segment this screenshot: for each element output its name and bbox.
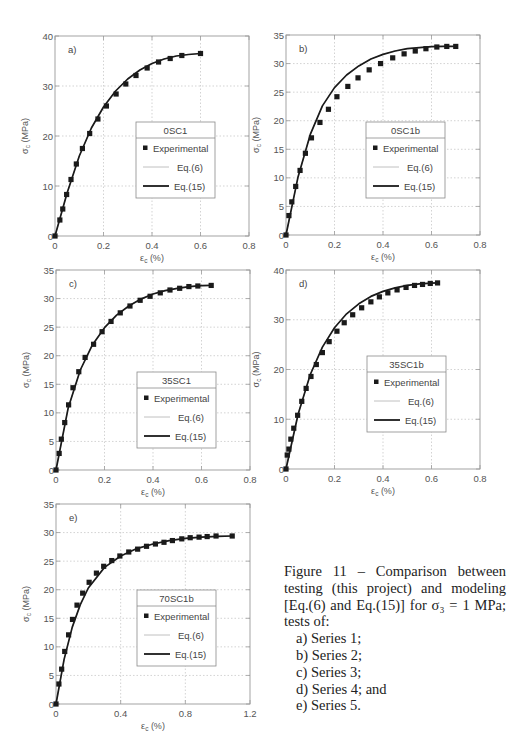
data-point <box>359 305 364 310</box>
x-tick-label: 0.6 <box>194 240 207 251</box>
data-point <box>114 91 119 96</box>
data-point <box>76 369 81 374</box>
data-point <box>394 287 399 292</box>
legend-title: 35SC1b <box>389 359 423 370</box>
data-point <box>170 538 175 543</box>
data-point <box>161 540 166 545</box>
data-point <box>94 571 99 576</box>
x-tick-label: 0.2 <box>328 239 341 250</box>
chart-panel-c: 00.20.40.60.805101520253035εc (%)σc (MPa… <box>21 265 257 499</box>
y-tick-label: 15 <box>43 613 54 624</box>
data-point <box>230 533 235 538</box>
data-point <box>156 59 161 64</box>
y-tick-label: 5 <box>279 201 284 212</box>
data-point <box>60 206 65 211</box>
y-tick-label: 0 <box>49 699 54 710</box>
y-axis-label: σc (MPa) <box>251 352 262 388</box>
x-axis-label: εc (%) <box>140 253 164 264</box>
x-tick-label: 0.2 <box>98 474 111 485</box>
data-point <box>101 564 106 569</box>
x-tick-label: 0 <box>52 240 57 251</box>
data-point <box>104 103 109 108</box>
data-point <box>320 350 325 355</box>
data-point <box>385 290 390 295</box>
legend-title: 35SC1 <box>162 375 191 386</box>
x-tick-label: 0.4 <box>376 239 389 250</box>
data-point <box>118 310 123 315</box>
data-point <box>317 120 322 125</box>
data-point <box>188 535 193 540</box>
caption-item-c: c) Series 3; <box>284 664 506 681</box>
data-point <box>299 399 304 404</box>
x-tick-label: 0 <box>283 239 288 250</box>
data-point <box>283 232 288 237</box>
legend-experimental: Experimental <box>384 377 439 388</box>
data-point <box>401 51 406 56</box>
y-tick-label: 30 <box>273 314 284 325</box>
y-tick-label: 35 <box>43 499 54 510</box>
data-point <box>123 81 128 86</box>
y-tick-label: 40 <box>273 265 284 276</box>
data-point <box>66 402 71 407</box>
legend-experimental: Experimental <box>153 143 208 154</box>
y-tick-label: 10 <box>43 407 54 418</box>
caption-item-d: d) Series 4; and <box>284 681 506 698</box>
data-point <box>80 146 85 151</box>
data-point <box>420 282 425 287</box>
x-tick-label: 1.2 <box>243 708 256 719</box>
y-axis-label: σc (MPa) <box>251 117 262 153</box>
square-marker-icon <box>143 146 148 151</box>
legend: 70SC1bExperimentalEq.(6)Eq.(15) <box>137 590 216 666</box>
data-point <box>80 591 85 596</box>
legend-title: 0SC1 <box>164 125 188 136</box>
legend-eq6: Eq.(6) <box>407 162 433 173</box>
data-point <box>350 312 355 317</box>
data-point <box>133 73 138 78</box>
y-tick-label: 20 <box>273 364 284 375</box>
square-marker-icon <box>144 396 149 401</box>
x-axis-label: εc (%) <box>371 252 395 263</box>
legend: 35SC1ExperimentalEq.(6)Eq.(15) <box>137 372 216 448</box>
square-marker-icon <box>374 380 379 385</box>
data-point <box>57 451 62 456</box>
x-tick-label: 0.4 <box>145 240 158 251</box>
data-point <box>295 413 300 418</box>
y-tick-label: 20 <box>43 350 54 361</box>
data-point <box>59 437 64 442</box>
data-point <box>209 283 214 288</box>
data-point <box>213 533 218 538</box>
data-point <box>390 55 395 60</box>
data-point <box>303 151 308 156</box>
data-point <box>56 681 61 686</box>
data-point <box>412 283 417 288</box>
data-point <box>135 547 140 552</box>
data-point <box>74 603 79 608</box>
data-point <box>95 116 100 121</box>
x-tick-label: 0 <box>283 473 288 484</box>
y-tick-label: 20 <box>273 115 284 126</box>
data-point <box>109 558 114 563</box>
legend-experimental: Experimental <box>154 611 209 622</box>
x-tick-label: 0.8 <box>473 473 486 484</box>
y-tick-label: 25 <box>43 322 54 333</box>
data-point <box>74 161 79 166</box>
legend-title: 0SC1b <box>391 125 420 136</box>
x-tick-label: 0.4 <box>376 473 389 484</box>
y-tick-label: 5 <box>49 436 54 447</box>
legend-experimental: Experimental <box>383 143 438 154</box>
caption-item-a: a) Series 1; <box>284 630 506 647</box>
data-point <box>326 107 331 112</box>
legend: 0SC1bExperimentalEq.(6)Eq.(15) <box>366 122 445 198</box>
legend-eq15: Eq.(15) <box>175 649 206 660</box>
data-point <box>57 217 62 222</box>
data-point <box>444 44 449 49</box>
x-tick-label: 0 <box>53 474 58 485</box>
x-tick-label: 0.6 <box>425 473 438 484</box>
legend: 0SC1ExperimentalEq.(6)Eq.(15) <box>136 122 215 198</box>
data-point <box>179 53 184 58</box>
data-point <box>289 199 294 204</box>
x-tick-label: 0.4 <box>146 474 159 485</box>
y-tick-label: 25 <box>43 556 54 567</box>
x-tick-label: 0.2 <box>328 473 341 484</box>
data-point <box>378 61 383 66</box>
